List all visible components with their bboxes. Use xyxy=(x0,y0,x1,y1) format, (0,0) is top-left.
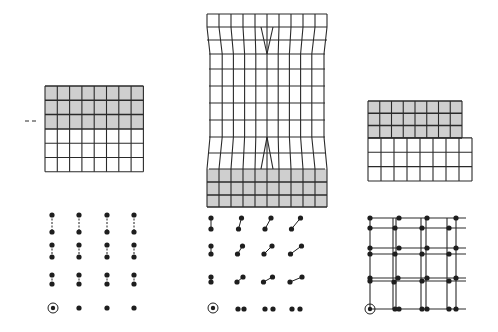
atom-dot xyxy=(367,225,372,230)
atom-dot xyxy=(49,281,54,286)
atom-dot xyxy=(287,279,292,284)
atom-dot xyxy=(367,278,372,283)
atom-dot xyxy=(289,306,294,311)
atom-dot xyxy=(453,215,458,220)
atom-dot xyxy=(240,243,245,248)
atom-dot xyxy=(396,245,401,250)
atom-dot xyxy=(131,212,136,217)
atom-dot xyxy=(367,245,372,250)
atom-dot xyxy=(297,306,302,311)
atom-dot xyxy=(236,226,241,231)
center-atom-pairs xyxy=(208,215,305,313)
atom-dot xyxy=(76,254,81,259)
atom-dot xyxy=(239,215,244,220)
atom-dot xyxy=(235,251,240,256)
atom-dot xyxy=(240,274,245,279)
left-undeformed-grid xyxy=(45,86,143,172)
atom-dot xyxy=(299,274,304,279)
atom-dot xyxy=(211,306,215,310)
atom-dot xyxy=(76,212,81,217)
center-twinned-grid xyxy=(207,14,327,207)
atom-dot xyxy=(396,306,401,311)
atom-dot xyxy=(49,242,54,247)
atom-dot xyxy=(131,254,136,259)
atom-dot xyxy=(453,306,458,311)
atom-dot xyxy=(299,243,304,248)
atom-dot xyxy=(424,275,429,280)
atom-dot xyxy=(104,281,109,286)
atom-dot xyxy=(391,279,396,284)
atom-dot xyxy=(208,226,213,231)
atom-dot xyxy=(76,242,81,247)
atom-dot xyxy=(419,278,424,283)
atom-dot xyxy=(419,251,424,256)
atom-dot xyxy=(262,226,267,231)
atom-dot xyxy=(208,274,213,279)
atom-dot xyxy=(49,229,54,234)
atom-dot xyxy=(131,242,136,247)
atom-dot xyxy=(235,306,240,311)
atom-dot xyxy=(392,251,397,256)
atom-dot xyxy=(49,272,54,277)
atom-dot xyxy=(104,254,109,259)
atom-dot xyxy=(446,225,451,230)
atom-dot xyxy=(367,215,372,220)
atom-dot xyxy=(208,251,213,256)
atom-dot xyxy=(270,274,275,279)
atom-dot xyxy=(104,212,109,217)
atom-dot xyxy=(419,306,424,311)
atom-dot xyxy=(234,279,239,284)
atom-dot xyxy=(104,229,109,234)
left-atom-pairs xyxy=(48,212,137,313)
atom-dot xyxy=(269,243,274,248)
atom-dot xyxy=(208,215,213,220)
atom-dot xyxy=(208,243,213,248)
atom-dot xyxy=(367,251,372,256)
atom-dot xyxy=(368,307,372,311)
atom-dot xyxy=(104,242,109,247)
atom-dot xyxy=(104,272,109,277)
atom-dot xyxy=(396,215,401,220)
atom-dot xyxy=(453,245,458,250)
atom-dot xyxy=(208,279,213,284)
atom-dot xyxy=(424,306,429,311)
atom-dot xyxy=(241,306,246,311)
atom-dot xyxy=(446,306,451,311)
atom-dot xyxy=(446,251,451,256)
lattice-deformation-diagram xyxy=(0,0,498,332)
atom-dot xyxy=(270,306,275,311)
atom-dot xyxy=(76,281,81,286)
atom-dot xyxy=(49,254,54,259)
atom-dot xyxy=(261,251,266,256)
atom-dot xyxy=(289,226,294,231)
right-stepped-grid xyxy=(368,101,472,181)
atom-dot xyxy=(104,305,109,310)
atom-dot xyxy=(262,306,267,311)
atom-dot xyxy=(261,279,266,284)
atom-dot xyxy=(298,215,303,220)
atom-dot xyxy=(51,306,55,310)
right-lattice-network xyxy=(365,215,466,314)
atom-dot xyxy=(76,305,81,310)
atom-dot xyxy=(395,275,400,280)
atom-dot xyxy=(453,275,458,280)
atom-dot xyxy=(49,212,54,217)
atom-dot xyxy=(131,281,136,286)
atom-dot xyxy=(446,278,451,283)
atom-dot xyxy=(424,245,429,250)
atom-dot xyxy=(76,229,81,234)
atom-dot xyxy=(131,305,136,310)
atom-dot xyxy=(419,225,424,230)
atom-dot xyxy=(131,229,136,234)
atom-dot xyxy=(392,225,397,230)
atom-dot xyxy=(268,215,273,220)
atom-dot xyxy=(288,251,293,256)
atom-dot xyxy=(424,215,429,220)
atom-dot xyxy=(76,272,81,277)
atom-dot xyxy=(131,272,136,277)
